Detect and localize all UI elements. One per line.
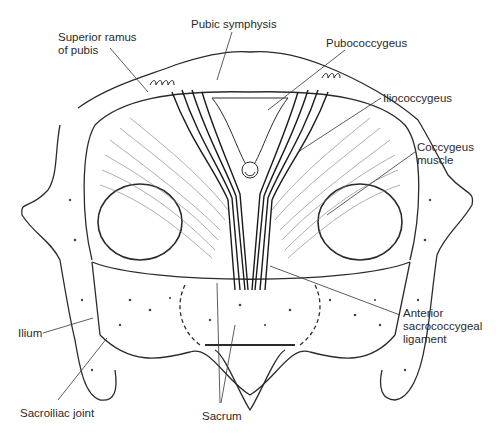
pelvic-floor-illustration [0, 0, 496, 439]
label-anterior-sacrococcygeal-ligament: Anterior sacrococcygeal ligament [403, 307, 482, 346]
label-line: sacrococcygeal [403, 320, 482, 333]
label-ilium: Ilium [18, 327, 42, 340]
label-line: Anterior [403, 307, 482, 320]
label-line: Superior ramus [58, 31, 137, 44]
figure-caption [20, 428, 480, 439]
label-pubic-symphysis: Pubic symphysis [191, 18, 277, 31]
label-line: Coccygeus [417, 141, 474, 154]
label-coccygeus-muscle: Coccygeus muscle [417, 141, 474, 167]
label-line: of pubis [58, 44, 137, 57]
sacrum-upper-edge [92, 262, 410, 279]
label-line: Sacrum [202, 410, 242, 423]
left-ilium-wing [22, 125, 116, 400]
label-line: Iliococcygeus [383, 92, 452, 105]
label-line: muscle [417, 154, 474, 167]
urogenital-hiatus [212, 98, 288, 170]
label-line: Pubic symphysis [191, 18, 277, 31]
label-sacroiliac-joint: Sacroiliac joint [20, 407, 94, 420]
label-line: Pubococcygeus [326, 37, 407, 50]
label-iliococcygeus: Iliococcygeus [383, 92, 452, 105]
label-pubococcygeus: Pubococcygeus [326, 37, 407, 50]
label-line: ligament [403, 333, 482, 346]
label-line: Sacroiliac joint [20, 407, 94, 420]
label-line: Ilium [18, 327, 42, 340]
label-sacrum: Sacrum [202, 410, 242, 423]
label-superior-ramus: Superior ramus of pubis [58, 31, 137, 57]
